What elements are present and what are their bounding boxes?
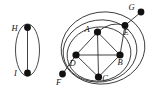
node-label-F: F xyxy=(55,77,62,87)
node-label-E: E xyxy=(122,27,129,37)
edge-C-D xyxy=(76,55,99,77)
node-H[interactable] xyxy=(24,24,31,31)
edge-layer xyxy=(28,12,142,77)
node-label-D: D xyxy=(68,58,76,68)
figure-root: H I A B C D E F G xyxy=(0,0,157,97)
graph-diagram: H I A B C D E F G xyxy=(0,0,157,97)
node-C[interactable] xyxy=(95,73,102,80)
node-label-B: B xyxy=(117,57,122,67)
node-A[interactable] xyxy=(94,28,101,35)
node-label-C: C xyxy=(102,73,108,83)
edge-A-E xyxy=(98,24,126,32)
node-label-G: G xyxy=(128,2,134,12)
edge-A-C xyxy=(98,32,99,77)
node-label-A: A xyxy=(83,24,90,34)
node-label-H: H xyxy=(10,23,18,33)
node-G[interactable] xyxy=(138,9,145,16)
node-label-I: I xyxy=(13,68,18,78)
edge-A-D xyxy=(76,32,98,55)
edge-A-B xyxy=(98,32,121,55)
node-layer xyxy=(24,9,144,81)
node-I[interactable] xyxy=(24,70,31,77)
